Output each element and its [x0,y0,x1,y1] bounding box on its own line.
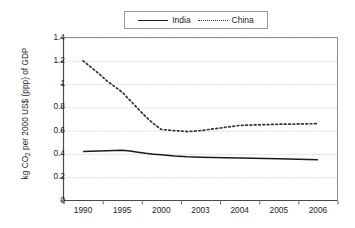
y-tick-label: 0.4 [25,149,65,158]
co2-intensity-line-chart: India China kg CO2 per 2000 US$ (ppp) of… [0,0,355,228]
chart-legend: India China [124,11,268,29]
y-tick-label: 1.2 [25,56,65,65]
y-tick-label: 0 [25,196,65,205]
x-tick-label: 1990 [62,205,104,215]
legend-label-india: India [172,15,190,25]
x-tick-label: 1995 [101,205,143,215]
y-tick-label: 0.8 [25,102,65,111]
y-tick-label: 0.6 [25,126,65,135]
legend-swatch-india-solid-line [138,16,168,24]
series-line-china [83,61,318,132]
legend-label-china: China [232,15,254,25]
x-tick-label: 2005 [258,205,300,215]
x-tick-label: 2003 [180,205,222,215]
legend-item-india: India [138,15,190,25]
axis-ticks [61,38,339,205]
data-series-group [83,61,318,160]
axis-lines [64,38,338,201]
legend-item-china: China [198,15,254,25]
y-tick-label: 0.2 [25,172,65,181]
series-line-india [83,150,318,160]
y-tick-label: 1 [25,79,65,88]
x-tick-label: 2006 [297,205,339,215]
legend-swatch-china-dotted-line [198,16,228,24]
x-tick-label: 2000 [140,205,182,215]
y-tick-label: 1.4 [25,33,65,42]
x-tick-label: 2004 [219,205,261,215]
